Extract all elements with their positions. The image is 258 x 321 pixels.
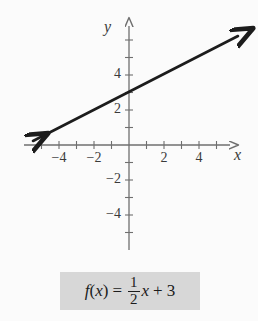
formula-box: f(x) = 1 2 x + 3 (60, 272, 200, 310)
y-axis (125, 26, 133, 250)
formula-denominator: 2 (128, 292, 140, 307)
formula-fraction: 1 2 (128, 275, 140, 307)
formula-close-paren: ) (103, 281, 109, 301)
formula-constant: 3 (167, 281, 176, 301)
x-tick-label-2: 2 (157, 150, 171, 166)
y-tick-label-neg4: −4 (97, 206, 121, 222)
y-axis-title: y (104, 18, 111, 36)
x-tick-label-neg4: −4 (47, 150, 71, 166)
function-formula: f(x) = 1 2 x + 3 (85, 275, 175, 307)
y-tick-label-neg2: −2 (97, 171, 121, 187)
x-axis (24, 141, 230, 149)
x-axis-title: x (234, 146, 241, 164)
x-tick-label-4: 4 (192, 150, 206, 166)
y-tick-label-2: 2 (107, 101, 121, 117)
formula-equals: = (112, 281, 122, 301)
formula-variable: x (95, 281, 103, 301)
y-tick-label-4: 4 (107, 66, 121, 82)
formula-times-variable: x (142, 281, 150, 301)
formula-plus: + (153, 281, 163, 301)
coordinate-plane (0, 0, 258, 268)
x-tick-label-neg2: −2 (82, 150, 106, 166)
function-line (33, 36, 238, 141)
figure: y x −4 −2 2 4 4 2 −2 −4 f(x) = 1 2 x + 3 (0, 0, 258, 321)
formula-numerator: 1 (128, 275, 140, 290)
